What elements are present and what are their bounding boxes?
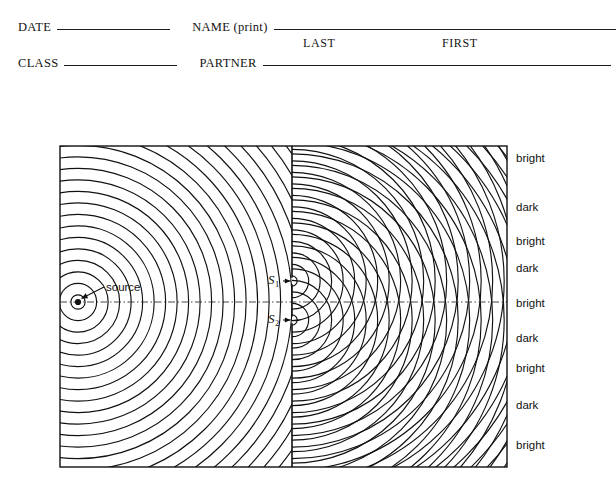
fringe-label-dark: dark xyxy=(516,262,538,274)
fringe-label-bright: bright xyxy=(516,152,545,164)
slit-1-subscript: 1 xyxy=(275,279,279,289)
source-leader-arrow xyxy=(81,287,104,299)
slit-2-letter: S xyxy=(268,311,275,326)
fringe-label-bright: bright xyxy=(516,235,545,247)
fringe-label-bright: bright xyxy=(516,362,545,374)
fringe-label-dark: dark xyxy=(516,201,538,213)
slit-1-label: S1 xyxy=(268,272,279,288)
fringe-label-bright: bright xyxy=(516,439,545,451)
slit-2-label: S2 xyxy=(268,311,279,327)
source-label: source xyxy=(106,281,141,293)
fringe-label-bright: bright xyxy=(516,297,545,309)
fringe-label-dark: dark xyxy=(516,332,538,344)
slit-leader-arrows xyxy=(283,278,291,322)
slit-2-subscript: 2 xyxy=(275,318,279,328)
source-point xyxy=(75,299,81,305)
fringe-label-dark: dark xyxy=(516,399,538,411)
slit-1-letter: S xyxy=(268,272,275,287)
